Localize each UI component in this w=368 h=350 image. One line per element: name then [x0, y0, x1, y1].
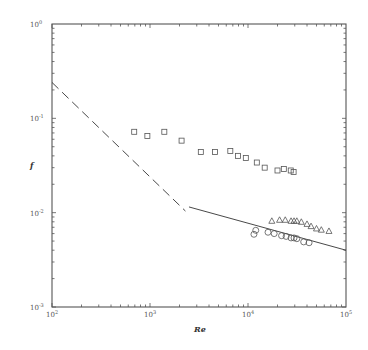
square-marker [145, 133, 150, 138]
triangle-marker [282, 217, 288, 223]
circle-marker [265, 229, 271, 235]
square-marker [132, 129, 137, 134]
data-markers [132, 129, 332, 245]
x-tick-label: 103 [144, 309, 156, 319]
square-marker [198, 149, 203, 154]
square-marker [254, 160, 259, 165]
square-marker [262, 165, 267, 170]
y-tick-label: 10-1 [30, 113, 44, 123]
triangle-marker [304, 221, 310, 227]
reference-lines [52, 82, 346, 250]
square-marker [243, 155, 248, 160]
circle-marker [306, 240, 312, 246]
tick-labels: 10210310410510010-110-210-3 [30, 19, 352, 319]
square-marker [281, 167, 286, 172]
x-tick-label: 102 [46, 309, 58, 319]
y-axis-title: f [29, 160, 35, 170]
axis-ticks [52, 24, 346, 307]
triangle-marker [313, 225, 319, 231]
square-marker [235, 153, 240, 158]
laminar-dashed-line [52, 82, 185, 211]
plot-border [52, 24, 346, 307]
plot-frame [52, 24, 346, 307]
y-tick-label: 100 [30, 19, 42, 29]
triangle-marker [326, 228, 332, 234]
y-tick-label: 10-3 [30, 302, 44, 312]
square-marker [212, 149, 217, 154]
x-tick-label: 104 [242, 309, 254, 319]
x-tick-label: 105 [340, 309, 352, 319]
circle-marker [271, 231, 277, 237]
square-marker [179, 138, 184, 143]
triangle-marker [277, 217, 283, 223]
square-marker [275, 168, 280, 173]
circle-marker [301, 239, 307, 245]
friction-factor-chart: 10210310410510010-110-210-3 Re f [0, 0, 368, 350]
x-axis-title: Re [193, 324, 206, 334]
square-marker [228, 149, 233, 154]
square-marker [162, 129, 167, 134]
triangle-marker [269, 218, 275, 224]
triangle-marker [318, 227, 324, 233]
y-tick-label: 10-2 [30, 208, 44, 218]
